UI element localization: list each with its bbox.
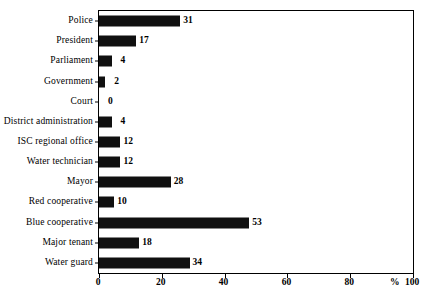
bar-value-label: 4 (121, 117, 126, 127)
category-label: Parliament (50, 57, 93, 67)
bar-row: Parliament4 (99, 51, 413, 71)
bar-value-label: 34 (193, 258, 203, 268)
category-label: Court (71, 97, 93, 107)
x-axis-tick-label: 20 (156, 278, 166, 288)
x-axis-tick-label: 0 (96, 278, 101, 288)
y-axis-tick (95, 101, 99, 102)
bar-value-label: 28 (174, 178, 184, 188)
bar-value-label: 10 (117, 198, 127, 208)
bar-value-label: 18 (142, 238, 152, 248)
bar (99, 76, 105, 87)
bar-row: Government2 (99, 71, 413, 91)
category-label: Police (68, 16, 93, 26)
bar-value-label: 17 (139, 36, 149, 46)
x-axis-tick-label: 40 (219, 278, 229, 288)
x-axis-tick-labels: 020406080100% (98, 278, 412, 292)
x-axis-tick-label: 100 (405, 278, 419, 288)
bar-value-label: 4 (121, 57, 126, 67)
category-label: Red cooperative (29, 198, 93, 208)
bar-row: Water guard34 (99, 253, 413, 273)
bar-row: District administration4 (99, 112, 413, 132)
bar (99, 217, 265, 228)
bar-row: ISC regional office12 (99, 132, 413, 152)
category-label: President (56, 36, 93, 46)
bar-row: Red cooperative10 (99, 192, 413, 212)
bar-value-label: 12 (123, 137, 133, 147)
bar-row: Blue cooperative53 (99, 213, 413, 233)
category-label: Blue cooperative (26, 218, 93, 228)
x-axis-unit-label: % (390, 278, 400, 288)
bar-row: President17 (99, 31, 413, 51)
bar-row: Mayor28 (99, 172, 413, 192)
x-axis-tick-label: 60 (282, 278, 292, 288)
category-label: Major tenant (42, 238, 93, 248)
plot-area: Police31President17Parliament4Government… (98, 10, 414, 274)
bar-value-label: 2 (114, 77, 119, 87)
category-label: ISC regional office (18, 137, 94, 147)
bar-value-label: 31 (183, 16, 193, 26)
bar (99, 116, 112, 127)
category-label: Mayor (67, 178, 93, 188)
bar-value-label: 12 (123, 157, 133, 167)
bar-value-label: 53 (252, 218, 262, 228)
bar (99, 56, 112, 67)
figure: Police31President17Parliament4Government… (0, 0, 430, 300)
category-label: Water technician (27, 157, 93, 167)
bar-row: Court0 (99, 92, 413, 112)
x-axis-tick-label: 80 (344, 278, 354, 288)
bar-row: Water technician12 (99, 152, 413, 172)
category-label: District administration (4, 117, 93, 127)
bar-row: Major tenant18 (99, 233, 413, 253)
bar-value-label: 0 (108, 97, 113, 107)
category-label: Water guard (45, 258, 93, 268)
bar-row: Police31 (99, 11, 413, 31)
category-label: Government (44, 77, 93, 87)
